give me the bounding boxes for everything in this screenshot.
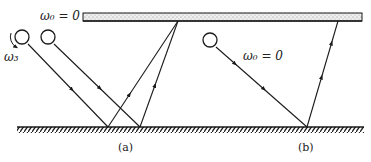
panel-a: ω₃ [4,21,178,127]
ball-icon [203,33,217,47]
top-plate [83,13,362,21]
top-plate-label: ω₀ = 0 [40,9,80,23]
floor [17,127,364,133]
caption-a: (a) [118,141,133,154]
ball-icon [41,30,55,44]
spin-label: ω₃ [4,50,19,64]
spinning-ball-icon [15,30,29,44]
caption-b: (b) [298,141,314,154]
panel-b-label: ω₀ = 0 [243,49,283,63]
panel-b [203,21,338,127]
reflection-diagram: ω₀ = 0 ω₃ (a) ω₀ = 0 (b) [0,0,371,162]
